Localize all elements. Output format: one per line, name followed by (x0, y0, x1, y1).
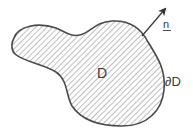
domain-diagram: n D ∂D (0, 0, 193, 135)
normal-vector-arrow (142, 9, 165, 36)
domain-region (12, 21, 164, 126)
normal-label: n (163, 18, 169, 30)
boundary-label: ∂D (165, 74, 181, 89)
domain-label: D (97, 65, 107, 81)
